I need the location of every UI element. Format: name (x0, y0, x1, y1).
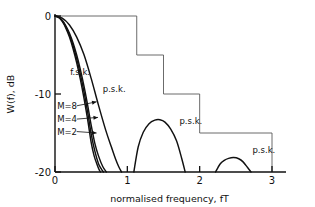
m4-label: M=4 (57, 114, 77, 124)
x-axis-title: normalised frequency, fT (110, 193, 229, 204)
curve-5 (216, 158, 251, 172)
y-axis-ticks (55, 16, 61, 172)
y-tick-label-0: 0 (45, 11, 51, 22)
x-axis-tick-labels: 0123 (52, 175, 275, 186)
x-tick-label-1: 1 (124, 175, 130, 186)
x-axis-ticks (55, 166, 272, 172)
x-tick-label-2: 2 (196, 175, 202, 186)
x-tick-label-3: 3 (269, 175, 275, 186)
spectrum-chart-figure: 0123 0-10-20 normalised frequency, fT W(… (0, 0, 315, 207)
y-tick-label-1: -10 (35, 89, 51, 100)
psk-main-label: p.s.k. (103, 84, 126, 94)
m2-label: M=2 (57, 127, 77, 137)
leader-arrowhead-1 (93, 116, 98, 120)
mask-outline (55, 16, 272, 172)
emission-mask-staircase (55, 16, 272, 172)
y-tick-label-2: -20 (35, 167, 51, 178)
curve-4 (134, 120, 185, 172)
axes-group (55, 14, 286, 172)
x-tick-label-0: 0 (52, 175, 58, 186)
fsk-group-label: f.s.k. (70, 67, 90, 77)
m8-label: M=8 (57, 101, 77, 111)
curve-annotations: f.s.k.p.s.k.p.s.k.p.s.k.M=8M=4M=2 (57, 67, 275, 156)
spectral-density-curves (55, 16, 251, 172)
y-axis-title: W(f), dB (5, 75, 16, 114)
psk-lobe1-label: p.s.k. (179, 116, 202, 126)
y-axis-tick-labels: 0-10-20 (35, 11, 51, 178)
curve-2 (55, 16, 106, 172)
leader-arrowhead-0 (92, 101, 97, 105)
chart-canvas: 0123 0-10-20 normalised frequency, fT W(… (0, 0, 315, 207)
psk-lobe2-label: p.s.k. (252, 145, 275, 155)
leader-arrowhead-2 (92, 131, 97, 135)
